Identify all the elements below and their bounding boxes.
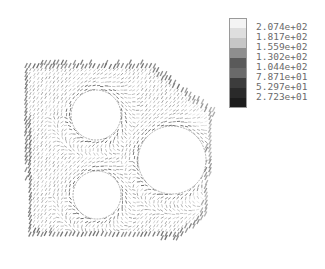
- hole-boundary: [138, 126, 206, 194]
- legend-swatch: [229, 48, 247, 58]
- legend-swatch: [229, 58, 247, 68]
- legend-swatch: [229, 38, 247, 48]
- legend-swatch: [229, 18, 247, 28]
- legend-row: 2.074e+02: [229, 18, 325, 28]
- legend-row: 1.817e+02: [229, 28, 325, 38]
- legend-swatch: [229, 28, 247, 38]
- hole-boundary: [71, 90, 121, 140]
- legend-row: 1.044e+02: [229, 58, 325, 68]
- legend-swatch: [229, 88, 247, 98]
- legend-swatch: [229, 78, 247, 88]
- legend-row: [229, 98, 325, 108]
- legend-row: 1.559e+02: [229, 38, 325, 48]
- legend-row: 7.871e+01: [229, 68, 325, 78]
- legend-row: 5.297e+01: [229, 78, 325, 88]
- legend-swatch: [229, 68, 247, 78]
- legend-row: 1.302e+02: [229, 48, 325, 58]
- hole-boundary: [73, 171, 121, 219]
- legend-swatch: [229, 98, 247, 108]
- legend-row: 2.723e+01: [229, 88, 325, 98]
